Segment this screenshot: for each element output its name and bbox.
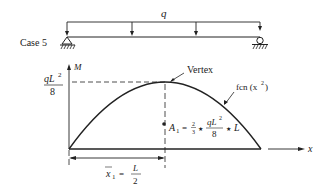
- svg-text:1: 1: [176, 127, 180, 135]
- svg-text:L: L: [132, 163, 138, 173]
- case-label: Case 5: [20, 37, 47, 48]
- curve-annotation: fcn (x 2 ): [224, 80, 268, 105]
- svg-text:=: =: [182, 123, 187, 133]
- roller-support-icon: [252, 37, 268, 49]
- max-moment-label: qL 2 8: [44, 71, 63, 97]
- arrow-right-icon: [158, 156, 165, 160]
- x-axis-label: x: [307, 143, 313, 154]
- vertex-annotation: Vertex: [170, 64, 213, 82]
- load-symbol: q: [161, 7, 167, 19]
- svg-text:): ): [265, 82, 268, 92]
- svg-text:8: 8: [212, 129, 217, 139]
- load-arrow-icon: [194, 22, 198, 36]
- svg-text:2: 2: [58, 71, 62, 79]
- beam-moment-diagram: Case 5 q: [0, 0, 328, 189]
- svg-text:★: ★: [226, 126, 231, 132]
- svg-text:qL: qL: [207, 117, 217, 127]
- centroid-dimension: x 1 = L 2: [69, 156, 165, 186]
- svg-text:=: =: [119, 169, 124, 179]
- svg-text:3: 3: [192, 129, 195, 135]
- arrow-up-icon: [67, 64, 71, 70]
- load-arrow-icon: [258, 22, 262, 31]
- svg-text:2: 2: [133, 176, 138, 186]
- svg-text:1: 1: [112, 173, 116, 181]
- svg-text:A: A: [168, 122, 176, 133]
- svg-text:fcn (x: fcn (x: [236, 82, 258, 92]
- svg-text:2: 2: [219, 115, 222, 121]
- svg-text:2: 2: [261, 80, 264, 86]
- moment-axis-label: M: [73, 62, 82, 72]
- svg-text:L: L: [233, 122, 240, 133]
- svg-text:2: 2: [192, 121, 195, 127]
- load-arrow-icon: [65, 22, 69, 36]
- centroid-dot: [162, 122, 166, 126]
- distributed-load: q: [65, 7, 262, 36]
- x-axis: x: [268, 143, 313, 154]
- pin-support-icon: [60, 37, 75, 49]
- arrow-right-icon: [298, 147, 305, 151]
- svg-text:x: x: [105, 168, 111, 179]
- svg-text:★: ★: [198, 126, 203, 132]
- svg-text:qL: qL: [44, 73, 55, 84]
- svg-text:8: 8: [50, 86, 55, 97]
- load-arrow-icon: [130, 22, 134, 36]
- arrow-left-icon: [69, 156, 76, 160]
- area-annotation: A 1 = 2 3 ★ qL 2 8 ★ L: [162, 115, 240, 139]
- vertex-label: Vertex: [187, 64, 213, 75]
